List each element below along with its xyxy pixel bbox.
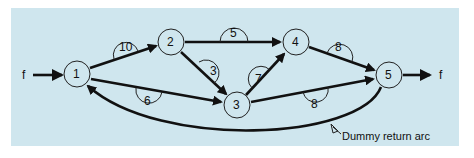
- node-1: 1: [64, 61, 90, 87]
- capacity-tag-3-4: 7: [248, 66, 270, 88]
- svg-text:1: 1: [73, 67, 80, 81]
- dummy-return-arc-annotation: Dummy return arc: [331, 124, 431, 142]
- svg-text:7: 7: [255, 72, 262, 86]
- svg-text:3: 3: [210, 64, 217, 78]
- svg-text:5: 5: [385, 68, 392, 82]
- node-5: 5: [376, 62, 402, 88]
- svg-text:3: 3: [233, 98, 240, 112]
- annotation-label: Dummy return arc: [342, 130, 431, 142]
- svg-text:8: 8: [311, 97, 318, 111]
- source-label: f: [22, 68, 26, 82]
- svg-text:5: 5: [230, 26, 237, 40]
- sink-arrow: f: [403, 68, 443, 82]
- node-3: 3: [224, 92, 250, 118]
- svg-text:4: 4: [292, 35, 299, 49]
- network-diagram: f f 10 6 5 3: [0, 0, 474, 158]
- node-2: 2: [158, 29, 184, 55]
- svg-text:10: 10: [119, 40, 133, 54]
- source-arrow: f: [22, 68, 62, 82]
- svg-text:6: 6: [144, 94, 151, 108]
- capacity-tag-2-4: 5: [220, 26, 248, 42]
- svg-text:8: 8: [335, 40, 342, 54]
- edge-3-4: [246, 54, 284, 95]
- sink-label: f: [439, 68, 443, 82]
- node-4: 4: [283, 29, 309, 55]
- edge-1-3: [91, 79, 221, 102]
- svg-text:2: 2: [167, 35, 174, 49]
